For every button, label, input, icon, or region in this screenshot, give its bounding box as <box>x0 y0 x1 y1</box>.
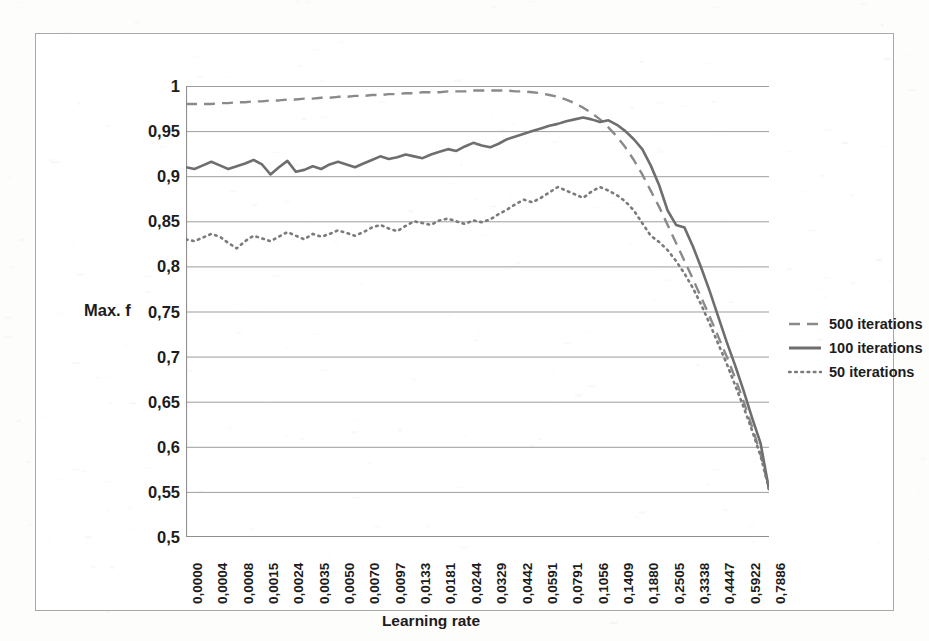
x-axis-tick-labels: 0,00000,00040,00080,00150,00240,00350,00… <box>186 544 769 606</box>
x-tick-label: 0,0050 <box>343 563 357 604</box>
y-tick-label: 0,75 <box>148 304 180 321</box>
legend-item[interactable]: 500 iterations <box>788 312 929 335</box>
y-tick-label: 0,85 <box>148 213 180 230</box>
x-tick-label: 0,1056 <box>597 563 611 604</box>
y-tick-label: 0,6 <box>157 439 180 456</box>
x-tick-label: 0,0442 <box>521 563 535 604</box>
x-tick-label: 0,3338 <box>698 563 712 604</box>
x-tick-label: 0,0004 <box>216 563 230 604</box>
legend-item[interactable]: 50 iterations <box>788 360 929 383</box>
series-line-1 <box>186 118 769 490</box>
x-tick-label: 0,0015 <box>267 563 281 604</box>
x-tick-label: 0,1409 <box>622 563 636 604</box>
y-tick-label: 0,8 <box>157 258 180 275</box>
legend-line-swatch <box>788 318 822 330</box>
x-tick-label: 0,0024 <box>292 563 306 604</box>
x-tick-label: 0,0791 <box>571 563 585 604</box>
y-tick-label: 0,7 <box>157 349 180 366</box>
legend-label: 100 iterations <box>829 340 923 356</box>
plot-svg <box>186 86 769 537</box>
x-tick-label: 0,0591 <box>546 563 560 604</box>
gridlines <box>186 87 769 538</box>
page-background: 10,950,90,850,80,750,70,650,60,550,5 Max… <box>0 0 929 641</box>
y-tick-label: 0,55 <box>148 484 180 501</box>
series-line-2 <box>186 187 769 489</box>
legend-line-swatch <box>788 342 822 354</box>
legend-label: 500 iterations <box>829 316 923 332</box>
x-tick-label: 0,0244 <box>470 563 484 604</box>
chart-frame: 10,950,90,850,80,750,70,650,60,550,5 Max… <box>35 33 894 611</box>
y-tick-label: 1 <box>171 78 180 95</box>
x-tick-label: 0,0181 <box>444 563 458 604</box>
x-tick-label: 0,0070 <box>368 563 382 604</box>
legend-label: 50 iterations <box>829 364 914 380</box>
x-tick-label: 0,0097 <box>394 563 408 604</box>
x-axis-title: Learning rate <box>36 612 826 630</box>
x-tick-label: 0,0008 <box>242 563 256 604</box>
legend-item[interactable]: 100 iterations <box>788 336 929 359</box>
y-axis-title: Max. f <box>84 302 131 319</box>
x-tick-label: 0,4447 <box>723 563 737 604</box>
x-tick-label: 0,0035 <box>318 563 332 604</box>
y-tick-label: 0,95 <box>148 123 180 140</box>
x-tick-label: 0,2505 <box>673 563 687 604</box>
chart-legend: 500 iterations100 iterations50 iteration… <box>788 312 929 384</box>
x-tick-label: 0,1880 <box>647 563 661 604</box>
data-series-group <box>186 91 769 490</box>
y-tick-label: 0,9 <box>157 168 180 185</box>
plot-area <box>186 86 769 537</box>
y-tick-label: 0,65 <box>148 394 180 411</box>
series-line-0 <box>186 91 769 490</box>
x-tick-label: 0,7886 <box>774 563 788 604</box>
legend-line-swatch <box>788 366 822 378</box>
x-tick-label: 0,0329 <box>495 563 509 604</box>
y-tick-label: 0,5 <box>157 529 180 546</box>
x-tick-label: 0,0000 <box>191 563 205 604</box>
x-tick-label: 0,0133 <box>419 563 433 604</box>
x-tick-label: 0,5922 <box>749 563 763 604</box>
